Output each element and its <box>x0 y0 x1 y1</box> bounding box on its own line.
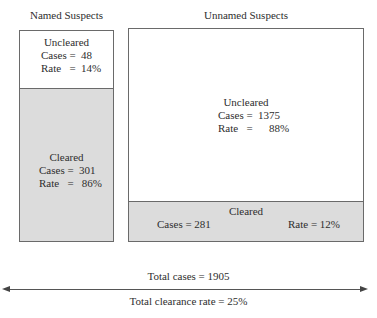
unnamed-cleared-label: Cleared <box>129 205 363 218</box>
total-cases: Total cases = 1905 <box>0 270 377 282</box>
unnamed-cleared-rate: Rate = 12% <box>288 218 340 231</box>
unnamed-suspects-box: Uncleared Cases = 1375 Rate = 88% Cleare… <box>128 28 364 242</box>
named-cleared-label: Cleared <box>20 151 113 164</box>
unnamed-cleared-cell: Cleared Cases = 281 Rate = 12% <box>129 202 363 241</box>
named-suspects-box: Uncleared Cases = 48 Rate = 14% Cleared … <box>19 30 114 242</box>
named-uncleared-cell: Uncleared Cases = 48 Rate = 14% <box>20 31 113 89</box>
named-uncleared-label: Uncleared <box>20 36 113 49</box>
unnamed-cleared-cases: Cases = 281 <box>157 218 211 231</box>
named-cleared-cases: Cases = 301 <box>39 164 96 177</box>
unnamed-uncleared-cell: Uncleared Cases = 1375 Rate = 88% <box>129 29 363 202</box>
double-arrow-icon <box>6 289 364 290</box>
unnamed-suspects-title: Unnamed Suspects <box>128 9 364 21</box>
named-cleared-cell: Cleared Cases = 301 Rate = 86% <box>20 89 113 241</box>
unnamed-uncleared-label: Uncleared <box>129 96 363 109</box>
named-uncleared-rate: Rate = 14% <box>41 62 101 75</box>
named-uncleared-cases: Cases = 48 <box>41 49 92 62</box>
named-cleared-rate: Rate = 86% <box>39 177 102 190</box>
named-suspects-title: Named Suspects <box>19 9 114 21</box>
total-clearance-rate: Total clearance rate = 25% <box>0 295 377 307</box>
unnamed-uncleared-rate: Rate = 88% <box>218 122 289 135</box>
unnamed-uncleared-cases: Cases = 1375 <box>218 109 280 122</box>
